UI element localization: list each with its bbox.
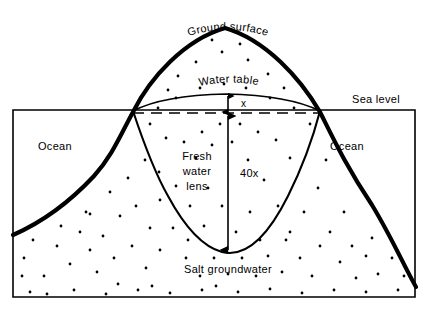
salt-groundwater-label: Salt groundwater: [184, 263, 272, 275]
ocean-right-label: Ocean: [330, 140, 364, 152]
fresh-water-lens-label-line1: Fresh: [182, 150, 212, 162]
fresh-water-lens-boundary: [133, 111, 320, 253]
sea-level-label: Sea level: [352, 93, 400, 105]
fresh-water-lens-label-line2: water: [182, 165, 211, 177]
water-table-label: Water table: [198, 72, 260, 88]
depth-measure-label: 40x: [240, 167, 259, 179]
cross-section-diagram: Ground surface Water table Sea level Oce…: [0, 0, 428, 311]
ground-surface-label: Ground surface: [186, 20, 270, 38]
fresh-water-lens-label-line3: lens: [186, 180, 208, 192]
x-measure-label: x: [241, 98, 246, 109]
ocean-left-label: Ocean: [38, 140, 72, 152]
water-table-curve: [133, 94, 320, 111]
figure-container: Ground surface Water table Sea level Oce…: [0, 0, 428, 311]
